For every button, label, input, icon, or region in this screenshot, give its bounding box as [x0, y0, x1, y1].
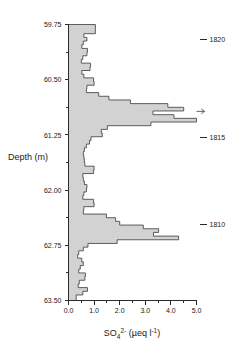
x-tick-label: 0.0	[64, 307, 74, 314]
x-tick-label: 4.0	[166, 307, 176, 314]
offscale-arrow-group	[197, 109, 205, 114]
x-axis-title-units: µeq l	[132, 328, 152, 338]
x-tick-label: 5.0	[192, 307, 202, 314]
y-axis-ticks: 59.7560.5061.2562.0062.7563.50	[44, 21, 69, 304]
year-label-1815: 1815	[210, 134, 226, 141]
offscale-arrow-0	[197, 109, 205, 114]
profile-series-group	[69, 25, 197, 301]
x-axis-ticks: 0.01.02.03.04.05.0	[64, 301, 202, 315]
y-axis-title: Depth (m)	[8, 152, 48, 162]
year-label-1810: 1810	[210, 221, 226, 228]
x-tick-label: 1.0	[89, 307, 99, 314]
x-axis-title: SO42- (µeq l-1)	[104, 327, 160, 340]
x-axis-title-subscript: 4	[117, 333, 121, 340]
chart-canvas: 59.7560.5061.2562.0062.7563.50 0.01.02.0…	[0, 0, 231, 348]
year-label-1820: 1820	[210, 36, 226, 43]
y-tick-label: 59.75	[44, 21, 62, 28]
x-tick-label: 3.0	[140, 307, 150, 314]
sulphate-depth-profile-figure: 59.7560.5061.2562.0062.7563.50 0.01.02.0…	[0, 0, 231, 348]
profile-area-fill	[69, 25, 197, 301]
y-tick-label: 62.75	[44, 242, 62, 249]
x-axis-title-species: SO	[104, 328, 117, 338]
year-annotations: 182018151810	[200, 36, 225, 228]
x-axis-title-units-close: )	[157, 328, 160, 338]
y-tick-label: 61.25	[44, 132, 62, 139]
y-tick-label: 62.00	[44, 187, 62, 194]
y-tick-label: 63.50	[44, 297, 62, 304]
y-tick-label: 60.50	[44, 76, 62, 83]
x-tick-label: 2.0	[115, 307, 125, 314]
